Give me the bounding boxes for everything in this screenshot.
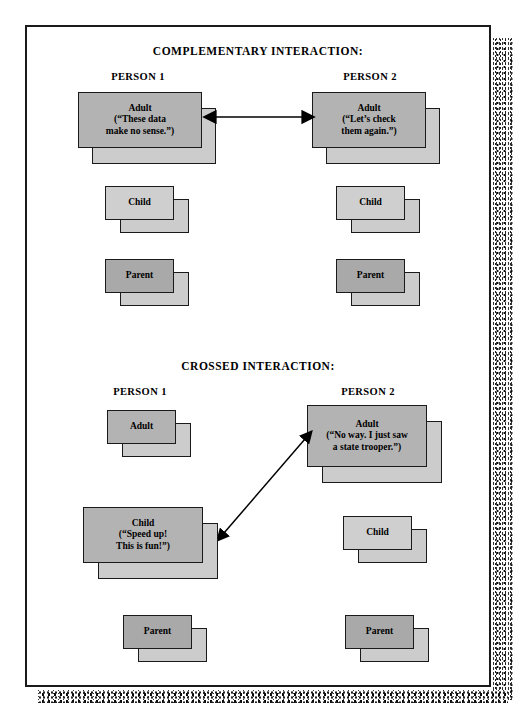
box-label-crossed-p1-child: Child (“Speed up! This is fun!”) xyxy=(113,518,173,553)
box-title: Child xyxy=(132,518,155,528)
box-label-complementary-p2-child: Child xyxy=(356,197,385,209)
section-heading-crossed: CROSSED INTERACTION: xyxy=(25,360,491,372)
box-front-crossed-p2-parent[interactable]: Parent xyxy=(345,615,414,649)
person-label-complementary-person-2: PERSON 2 xyxy=(320,71,420,82)
box-quote-line-1: (“Speed up! xyxy=(119,529,167,539)
person-label-complementary-person-1: PERSON 1 xyxy=(88,71,188,82)
box-label-crossed-p2-adult: Adult (“No way. I just saw a state troop… xyxy=(323,419,411,454)
box-quote-line-2: them again.”) xyxy=(341,126,396,136)
box-title: Adult xyxy=(357,103,380,113)
box-quote-line-1: (“No way. I just saw xyxy=(326,430,408,440)
box-title: Adult xyxy=(128,103,151,113)
figure-page: COMPLEMENTARY INTERACTION: PERSON 1 PERS… xyxy=(0,0,526,723)
scan-edge-bottom xyxy=(38,690,508,703)
arrow-crossed-child-to-adult xyxy=(210,425,320,550)
box-front-complementary-p1-child[interactable]: Child xyxy=(105,186,174,220)
box-label-complementary-p1-adult: Adult (“These data make no sense.”) xyxy=(103,103,177,138)
scan-edge-right xyxy=(493,38,513,700)
box-label-crossed-p2-parent: Parent xyxy=(363,626,396,638)
box-quote-line-1: (“These data xyxy=(114,114,166,124)
box-front-complementary-p2-parent[interactable]: Parent xyxy=(336,259,405,293)
person-label-crossed-person-1: PERSON 1 xyxy=(90,386,190,397)
box-front-complementary-p1-parent[interactable]: Parent xyxy=(105,259,174,293)
arrow-complementary-adult-to-adult xyxy=(202,105,316,131)
box-front-complementary-p2-adult[interactable]: Adult (“Let’s check them again.”) xyxy=(312,92,426,148)
section-heading-complementary: COMPLEMENTARY INTERACTION: xyxy=(25,45,491,57)
box-label-complementary-p2-adult: Adult (“Let’s check them again.”) xyxy=(338,103,399,138)
box-front-crossed-p1-child[interactable]: Child (“Speed up! This is fun!”) xyxy=(83,507,203,563)
box-front-complementary-p2-child[interactable]: Child xyxy=(336,186,405,220)
box-quote-line-1: (“Let’s check xyxy=(342,114,396,124)
box-label-crossed-p2-child: Child xyxy=(363,527,392,539)
box-front-crossed-p2-adult[interactable]: Adult (“No way. I just saw a state troop… xyxy=(307,405,427,467)
box-label-complementary-p2-parent: Parent xyxy=(354,270,387,282)
box-label-crossed-p1-adult: Adult xyxy=(127,421,156,433)
box-front-crossed-p2-child[interactable]: Child xyxy=(343,516,412,550)
box-quote-line-2: make no sense.”) xyxy=(106,126,174,136)
box-title: Adult xyxy=(355,419,378,429)
box-front-complementary-p1-adult[interactable]: Adult (“These data make no sense.”) xyxy=(78,92,202,148)
box-label-complementary-p1-child: Child xyxy=(125,197,154,209)
person-label-crossed-person-2: PERSON 2 xyxy=(318,386,418,397)
box-quote-line-2: a state trooper.”) xyxy=(333,442,401,452)
box-label-complementary-p1-parent: Parent xyxy=(123,270,156,282)
box-front-crossed-p1-adult[interactable]: Adult xyxy=(107,410,176,444)
box-quote-line-2: This is fun!”) xyxy=(116,541,170,551)
box-front-crossed-p1-parent[interactable]: Parent xyxy=(123,615,192,649)
box-label-crossed-p1-parent: Parent xyxy=(141,626,174,638)
